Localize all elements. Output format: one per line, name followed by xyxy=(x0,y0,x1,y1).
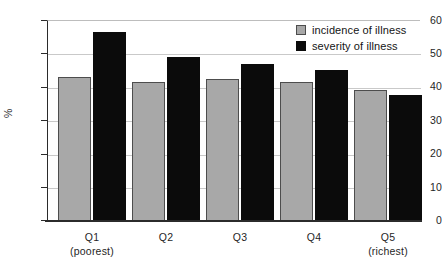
legend-label-incidence: incidence of illness xyxy=(312,24,406,36)
x-category-q3: Q3 xyxy=(205,231,275,245)
y-axis-title: % xyxy=(2,109,14,118)
y-tick-mark-10 xyxy=(41,187,47,188)
y-tick-mark-40 xyxy=(41,87,47,88)
y-tick-mark-20 xyxy=(41,154,47,155)
x-category-q5-sublabel: (richest) xyxy=(353,245,423,257)
x-category-q1: Q1 (poorest) xyxy=(57,231,127,257)
bar-q3-severity xyxy=(241,64,274,221)
legend-swatch-severity-icon xyxy=(296,41,306,51)
legend-item-severity: severity of illness xyxy=(296,39,406,53)
legend-swatch-incidence-icon xyxy=(296,25,306,35)
bar-q3-incidence xyxy=(206,79,239,221)
x-category-q2-label: Q2 xyxy=(131,231,201,243)
x-category-q1-label: Q1 xyxy=(57,231,127,243)
y-tick-mark-30 xyxy=(41,120,47,121)
x-category-q2: Q2 xyxy=(131,231,201,245)
bar-chart: % 60 50 40 30 20 10 0 xyxy=(0,0,442,277)
x-category-q4: Q4 xyxy=(279,231,349,245)
bar-q4-severity xyxy=(315,70,348,221)
bar-q4-incidence xyxy=(280,82,313,221)
x-axis-line xyxy=(45,220,422,222)
bar-q5-severity xyxy=(389,95,422,221)
x-category-q4-label: Q4 xyxy=(279,231,349,243)
bar-q1-severity xyxy=(93,32,126,221)
y-tick-mark-50 xyxy=(41,53,47,54)
bar-q1-incidence xyxy=(58,77,91,221)
x-category-q3-label: Q3 xyxy=(205,231,275,243)
y-tick-mark-60 xyxy=(41,20,47,21)
x-category-q5: Q5 (richest) xyxy=(353,231,423,257)
legend-item-incidence: incidence of illness xyxy=(296,23,406,37)
bar-q2-incidence xyxy=(132,82,165,221)
chart-legend: incidence of illness severity of illness xyxy=(296,23,406,55)
bar-q2-severity xyxy=(167,57,200,221)
legend-label-severity: severity of illness xyxy=(312,40,398,52)
bar-q5-incidence xyxy=(354,90,387,221)
x-category-q5-label: Q5 xyxy=(353,231,423,243)
x-category-q1-sublabel: (poorest) xyxy=(57,245,127,257)
